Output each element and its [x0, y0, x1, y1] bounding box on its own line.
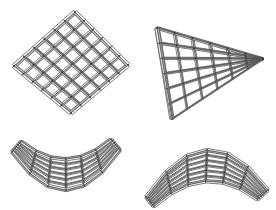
- diamond-lattice-members: [13, 11, 129, 114]
- triangular-grid-canvas: [138, 0, 276, 128]
- flat-diamond-grid-canvas: [0, 0, 138, 128]
- figure-flat-diamond-grid: [0, 0, 138, 128]
- figure-sheet: [0, 0, 276, 210]
- figure-triangular-grid: [138, 0, 276, 128]
- figure-arch-grid: [138, 128, 276, 210]
- arch-grid-canvas: [138, 128, 276, 210]
- figure-saddle-grid: [0, 128, 138, 210]
- saddle-grid-canvas: [0, 128, 138, 210]
